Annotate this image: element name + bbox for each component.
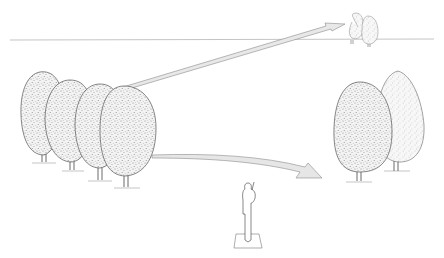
perspective-illustration bbox=[0, 0, 444, 258]
arrow-to-middle-trees bbox=[152, 154, 322, 178]
arrow-to-far-trees bbox=[113, 23, 345, 93]
near-trees bbox=[21, 72, 156, 188]
far-trees bbox=[349, 13, 378, 47]
observer-sightline-stick bbox=[252, 182, 254, 190]
middle-tree-front bbox=[334, 82, 392, 172]
middle-trees bbox=[334, 71, 424, 182]
near-tree-4 bbox=[100, 86, 156, 176]
observer bbox=[234, 182, 262, 248]
observer-figure bbox=[243, 183, 256, 242]
